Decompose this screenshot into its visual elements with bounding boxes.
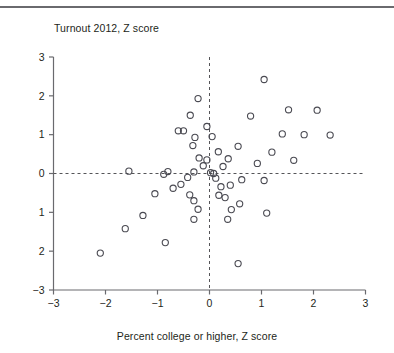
data-point (218, 184, 224, 190)
data-point (191, 198, 197, 204)
x-tick-label: −3 (48, 297, 60, 309)
data-point (140, 212, 146, 218)
y-tick-label: 2 (39, 90, 45, 102)
data-point (291, 157, 297, 163)
data-point (192, 134, 198, 140)
data-points (97, 76, 333, 266)
data-point (195, 95, 201, 101)
data-point (187, 192, 193, 198)
y-tick-label: 3 (39, 51, 45, 63)
tick-marks-and-labels: −3−2−10123321012−3 (33, 51, 369, 309)
zero-reference-lines (54, 57, 366, 290)
data-point (122, 226, 128, 232)
data-point (222, 194, 228, 200)
data-point (247, 113, 253, 119)
data-point (285, 107, 291, 113)
plot-canvas: −3−2−10123321012−3 (0, 0, 394, 353)
data-point (126, 168, 132, 174)
x-axis-title: Percent college or higher, Z score (0, 330, 394, 342)
data-point (239, 177, 245, 183)
data-point (237, 201, 243, 207)
data-point (225, 156, 231, 162)
data-point (269, 149, 275, 155)
data-point (225, 216, 231, 222)
data-point (178, 181, 184, 187)
data-point (170, 185, 176, 191)
x-tick-label: 1 (259, 297, 265, 309)
data-point (216, 192, 222, 198)
scatter-plot-figure: Turnout 2012, Z score −3−2−10123321012−3… (0, 0, 394, 353)
data-point (227, 182, 233, 188)
data-point (190, 142, 196, 148)
x-tick-label: 2 (311, 297, 317, 309)
data-point (97, 250, 103, 256)
data-point (327, 132, 333, 138)
data-point (279, 131, 285, 137)
data-point (261, 76, 267, 82)
x-tick-label: −1 (152, 297, 164, 309)
data-point (204, 123, 210, 129)
y-tick-label: 1 (39, 128, 45, 140)
data-point (235, 260, 241, 266)
data-point (191, 216, 197, 222)
y-tick-label: 2 (39, 245, 45, 257)
y-tick-label: 0 (39, 167, 45, 179)
data-point (215, 149, 221, 155)
data-point (152, 191, 158, 197)
x-tick-label: −2 (100, 297, 112, 309)
data-point (235, 143, 241, 149)
data-point (261, 177, 267, 183)
data-point (196, 155, 202, 161)
data-point (185, 174, 191, 180)
data-point (187, 112, 193, 118)
x-tick-label: 3 (363, 297, 369, 309)
data-point (200, 163, 206, 169)
y-tick-label: 1 (39, 206, 45, 218)
data-point (254, 160, 260, 166)
data-point (314, 107, 320, 113)
data-point (228, 207, 234, 213)
data-point (264, 210, 270, 216)
data-point (220, 163, 226, 169)
data-point (191, 169, 197, 175)
data-point (162, 240, 168, 246)
y-tick-label: −3 (33, 284, 45, 296)
data-point (301, 132, 307, 138)
data-point (195, 206, 201, 212)
x-tick-label: 0 (207, 297, 213, 309)
